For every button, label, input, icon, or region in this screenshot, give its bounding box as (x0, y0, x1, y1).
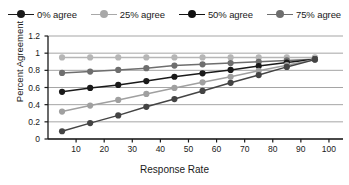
series-point (87, 69, 93, 75)
series-point (87, 120, 93, 126)
series-point (115, 54, 121, 60)
series-point (228, 54, 234, 60)
chart-figure: 0% agree 25% agree 50% agree 75% agree P… (0, 0, 349, 185)
series-point (115, 82, 121, 88)
series-point (312, 57, 318, 63)
series-point (143, 65, 149, 71)
series-point (199, 54, 205, 60)
series-point (171, 74, 177, 80)
series-point (199, 61, 205, 67)
series-point (143, 78, 149, 84)
series-line-1 (62, 59, 315, 73)
series-point (284, 64, 290, 70)
series-point (228, 67, 234, 73)
series-point (115, 97, 121, 103)
series-point (171, 54, 177, 60)
series-point (59, 128, 65, 134)
series-line-3 (62, 60, 315, 112)
series-line-2 (62, 59, 315, 92)
series-point (199, 88, 205, 94)
series-point (228, 60, 234, 66)
series-point (59, 70, 65, 76)
series-point (171, 85, 177, 91)
series-point (199, 79, 205, 85)
series-point (115, 67, 121, 73)
series-point (199, 70, 205, 76)
series-point (171, 96, 177, 102)
series-point (143, 104, 149, 110)
series-point (143, 91, 149, 97)
series-point (171, 63, 177, 69)
series-point (87, 102, 93, 108)
series-point (59, 108, 65, 114)
series-point (256, 72, 262, 78)
series-point (87, 85, 93, 91)
chart-plot-area (0, 0, 349, 185)
series-point (87, 54, 93, 60)
series-point (143, 54, 149, 60)
x-axis-title: Response Rate (0, 164, 349, 175)
series-point (228, 80, 234, 86)
series-point (59, 54, 65, 60)
series-point (59, 89, 65, 95)
series-point (228, 74, 234, 80)
series-point (115, 112, 121, 118)
